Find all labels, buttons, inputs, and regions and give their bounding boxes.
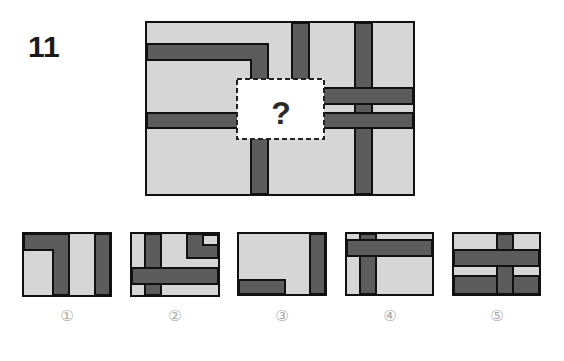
- question-mark: ?: [271, 95, 291, 131]
- vertical-bar-right-mid: [355, 104, 372, 113]
- option-2-label[interactable]: ②: [165, 306, 185, 326]
- option-5-figure[interactable]: [453, 233, 540, 295]
- vertical-bar-right: [355, 23, 372, 88]
- option-4-label[interactable]: ④: [380, 306, 400, 326]
- option-2-figure[interactable]: [131, 233, 219, 296]
- option-5-label[interactable]: ⑤: [487, 306, 507, 326]
- vertical-bar-right-bottom: [355, 128, 372, 194]
- option-3-label[interactable]: ③: [272, 306, 292, 326]
- main-figure: ?: [146, 22, 414, 195]
- option-3-figure[interactable]: [238, 233, 326, 295]
- option-1-figure[interactable]: [23, 233, 111, 296]
- vertical-bar-bottom: [251, 134, 268, 194]
- option-1-label[interactable]: ①: [57, 306, 77, 326]
- horizontal-bar-right-upper: [320, 88, 413, 104]
- horizontal-bar-left: [147, 113, 241, 128]
- option-4-figure[interactable]: [346, 233, 433, 295]
- horizontal-bar-right-lower: [320, 113, 413, 128]
